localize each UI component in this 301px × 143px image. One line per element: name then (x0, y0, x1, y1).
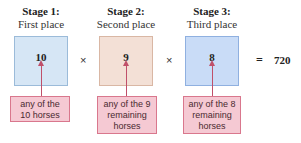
result-value: 720 (274, 54, 291, 66)
stage-2-subtitle: Second place (88, 18, 164, 30)
label-line: horses (98, 121, 156, 132)
multiply-sign: × (166, 54, 172, 66)
label-line: remaining (98, 110, 156, 121)
label-line: any of the 9 (98, 99, 156, 110)
label-line: horses (184, 121, 240, 132)
connector-line (41, 65, 42, 96)
multiply-sign: × (80, 54, 86, 66)
stage-1-title: Stage 1: (8, 5, 74, 17)
label-line: 10 horses (11, 110, 69, 121)
stage-3-label: any of the 8 remaining horses (183, 96, 241, 134)
stage-2-label: any of the 9 remaining horses (97, 96, 157, 134)
stage-3-subtitle: Third place (174, 18, 250, 30)
connector-line (212, 65, 213, 96)
stage-2-title: Stage 2: (93, 5, 159, 17)
label-line: any of the (11, 99, 69, 110)
equals-sign: = (256, 53, 263, 68)
connector-line (126, 65, 127, 96)
stage-1-subtitle: First place (4, 18, 78, 30)
stage-3-title: Stage 3: (179, 5, 245, 17)
label-line: remaining (184, 110, 240, 121)
stage-1-label: any of the 10 horses (10, 96, 70, 122)
label-line: any of the 8 (184, 99, 240, 110)
